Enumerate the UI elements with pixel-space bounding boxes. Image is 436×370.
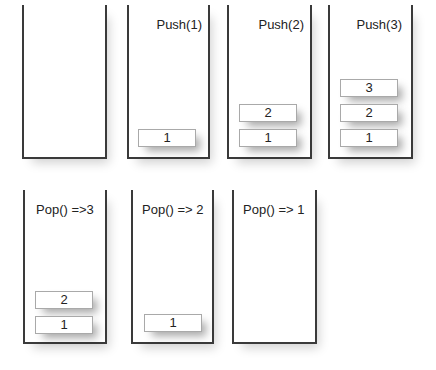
stack-item: 2 (340, 104, 398, 122)
stack-item: 1 (35, 316, 93, 334)
stack-item: 1 (239, 129, 297, 147)
stack-item: 2 (239, 104, 297, 122)
operation-label: Pop() => 1 (243, 202, 304, 217)
stack-push-1: Push(1) 1 (127, 5, 210, 159)
stack-push-3: Push(3) 3 2 1 (328, 5, 413, 159)
operation-label: Pop() =>3 (36, 202, 94, 217)
stack-push-2: Push(2) 2 1 (227, 5, 312, 159)
operation-label: Push(2) (258, 17, 304, 32)
stack-item: 2 (35, 291, 93, 309)
stack-item: 3 (340, 79, 398, 97)
stack-empty (22, 5, 107, 159)
operation-label: Push(3) (356, 17, 402, 32)
stack-pop-3: Pop() =>3 2 1 (23, 190, 107, 344)
operation-label: Pop() => 2 (142, 202, 203, 217)
stack-pop-1: Pop() => 1 (232, 190, 317, 344)
stack-pop-2: Pop() => 2 1 (131, 190, 214, 344)
stack-item: 1 (340, 129, 398, 147)
stack-item: 1 (138, 129, 196, 147)
stack-item: 1 (144, 314, 202, 332)
operation-label: Push(1) (156, 17, 202, 32)
